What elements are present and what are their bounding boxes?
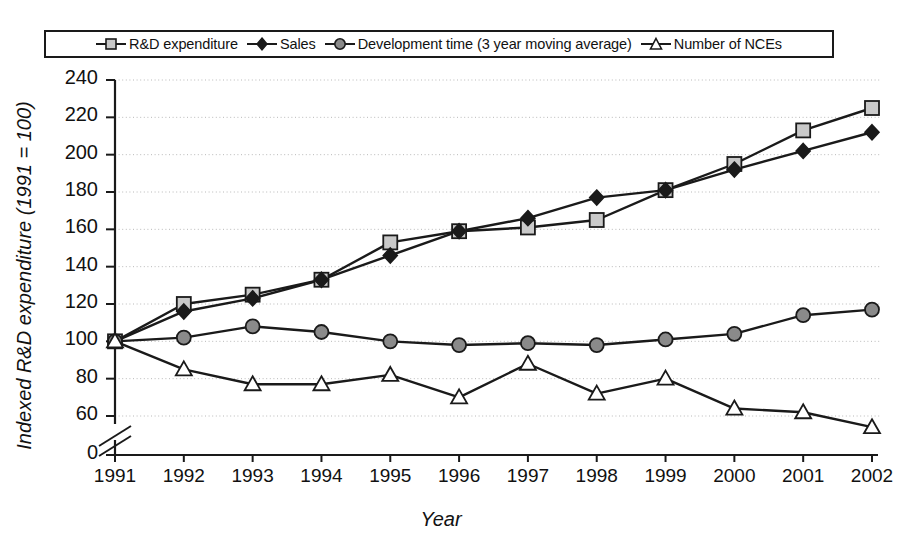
series-line-1	[115, 132, 872, 341]
x-axis-tick-label: 1995	[355, 465, 425, 487]
x-axis-tick-label: 2002	[837, 465, 897, 487]
data-point-circle	[659, 332, 673, 346]
x-axis-tick-label: 1993	[218, 465, 288, 487]
data-point-circle	[796, 308, 810, 322]
x-axis-tick-label: 2000	[699, 465, 769, 487]
data-point-square	[865, 101, 879, 115]
y-axis-tick-label: 220	[38, 103, 98, 126]
data-point-circle	[590, 338, 604, 352]
data-point-circle	[246, 319, 260, 333]
data-point-triangle	[658, 371, 674, 385]
x-axis-tick-label: 1997	[493, 465, 563, 487]
y-axis-tick-label: 240	[38, 66, 98, 89]
data-point-triangle	[382, 367, 398, 381]
x-axis-tick-label: 1996	[424, 465, 494, 487]
y-axis-tick-label: 160	[38, 215, 98, 238]
data-point-triangle	[726, 401, 742, 415]
data-point-circle	[383, 334, 397, 348]
data-point-circle	[865, 303, 879, 317]
data-point-circle	[521, 336, 535, 350]
y-axis-tick-label: 180	[38, 178, 98, 201]
y-axis-tick-label: 100	[38, 327, 98, 350]
x-axis-tick-label: 1992	[149, 465, 219, 487]
y-axis-tick-label: 60	[38, 402, 98, 425]
x-axis-tick-label: 1994	[286, 465, 356, 487]
x-axis-tick-label: 1991	[80, 465, 150, 487]
data-point-triangle	[520, 356, 536, 370]
data-point-circle	[314, 325, 328, 339]
data-point-circle	[452, 338, 466, 352]
y-axis-tick-label: 120	[38, 290, 98, 313]
data-point-square	[796, 123, 810, 137]
y-axis-tick-label: 140	[38, 253, 98, 276]
data-point-diamond	[865, 125, 879, 140]
x-axis-tick-label: 1999	[631, 465, 701, 487]
y-axis-tick-label: 0	[38, 441, 98, 464]
y-axis-tick-label: 200	[38, 141, 98, 164]
y-axis-tick-label: 80	[38, 365, 98, 388]
data-point-diamond	[796, 143, 810, 158]
series-line-2	[115, 310, 872, 345]
data-point-square	[590, 213, 604, 227]
series-line-3	[115, 341, 872, 427]
data-point-circle	[177, 331, 191, 345]
x-axis-title: Year	[0, 508, 882, 531]
x-axis-tick-label: 1998	[562, 465, 632, 487]
y-axis-title: Indexed R&D expenditure (1991 = 100)	[13, 76, 36, 476]
data-point-circle	[727, 327, 741, 341]
x-axis-tick-label: 2001	[768, 465, 838, 487]
